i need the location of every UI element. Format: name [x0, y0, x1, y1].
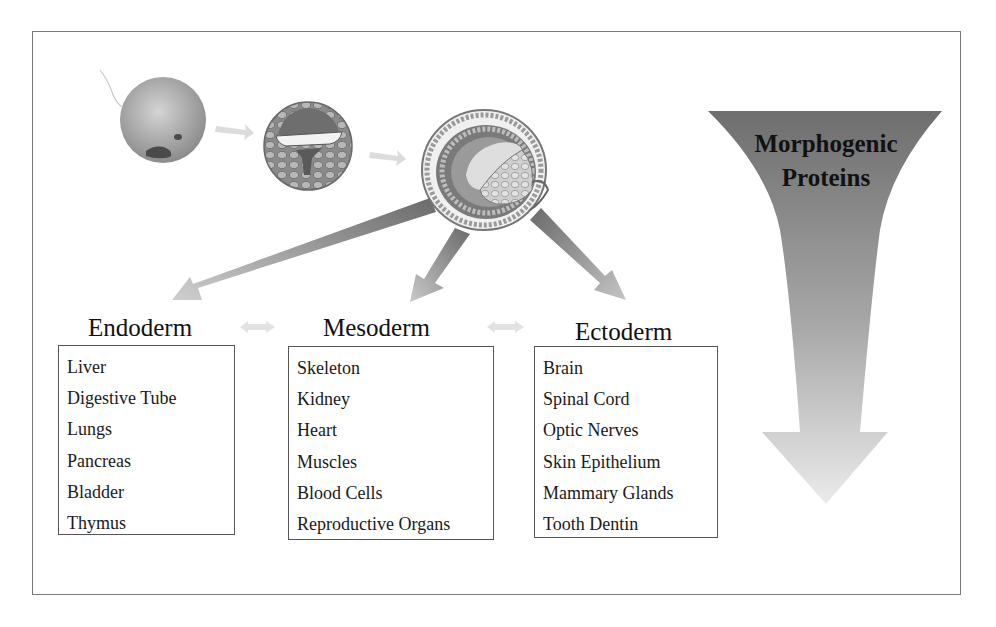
- list-item: Skeleton: [297, 353, 493, 384]
- endoderm-heading: Endoderm: [88, 314, 192, 342]
- gastrula-icon: [422, 110, 548, 230]
- list-item: Liver: [67, 352, 234, 383]
- ectoderm-list: Brain Spinal Cord Optic Nerves Skin Epit…: [534, 346, 718, 538]
- morphogenic-proteins-label: Morphogenic Proteins: [736, 127, 916, 195]
- list-item: Brain: [543, 353, 717, 384]
- list-item: Spinal Cord: [543, 384, 717, 415]
- list-item: Thymus: [67, 508, 234, 539]
- list-item: Kidney: [297, 384, 493, 415]
- list-item: Heart: [297, 415, 493, 446]
- list-item: Blood Cells: [297, 478, 493, 509]
- ectoderm-heading: Ectoderm: [575, 318, 672, 346]
- stage-arrow-icon: [215, 124, 254, 140]
- label-line-1: Morphogenic: [736, 127, 916, 161]
- label-line-2: Proteins: [736, 161, 916, 195]
- list-item: Optic Nerves: [543, 415, 717, 446]
- list-item: Pancreas: [67, 446, 234, 477]
- endoderm-list: Liver Digestive Tube Lungs Pancreas Blad…: [58, 345, 235, 535]
- stage-arrow-icon: [369, 150, 406, 166]
- list-item: Skin Epithelium: [543, 447, 717, 478]
- list-item: Lungs: [67, 414, 234, 445]
- list-item: Digestive Tube: [67, 383, 234, 414]
- mesoderm-list: Skeleton Kidney Heart Muscles Blood Cell…: [288, 346, 494, 540]
- list-item: Muscles: [297, 447, 493, 478]
- list-item: Mammary Glands: [543, 478, 717, 509]
- bidirectional-arrow-icon: [240, 321, 275, 333]
- blastula-icon: [264, 102, 352, 190]
- mesoderm-heading: Mesoderm: [323, 314, 430, 342]
- bidirectional-arrow-icon: [487, 321, 524, 333]
- differentiation-arrows: [172, 198, 626, 302]
- list-item: Bladder: [67, 477, 234, 508]
- fertilized-egg-icon: [100, 70, 206, 163]
- list-item: Reproductive Organs: [297, 509, 493, 540]
- list-item: Tooth Dentin: [543, 509, 717, 540]
